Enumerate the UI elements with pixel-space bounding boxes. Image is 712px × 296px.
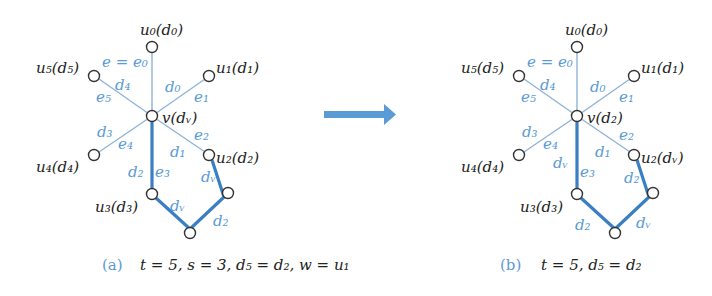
- node-u4: [514, 150, 525, 161]
- color-label-d0: d₀: [590, 78, 606, 96]
- node-u5: [514, 71, 525, 82]
- color-label-d1: d₁: [595, 143, 611, 161]
- path-label-u3-bottom: d₂: [575, 216, 591, 234]
- label-u0: u₀(d₀): [140, 21, 183, 39]
- label-u3: u₃(d₃): [520, 198, 563, 216]
- node-u1: [204, 71, 215, 82]
- edge-label-e0: e = e₀: [527, 53, 573, 71]
- path-label-u3-bottom: dᵥ: [170, 197, 185, 215]
- label-u3: u₃(d₃): [95, 198, 138, 216]
- panel-a: u₀(d₀) u₁(d₁) u₅(d₅) v(dᵥ) u₄(d₄) u₂(d₂)…: [36, 21, 350, 274]
- caption-tag-b: (b): [500, 256, 521, 274]
- transition-arrow: [324, 104, 396, 125]
- edge-label-e4: e₄: [118, 135, 133, 153]
- color-label-d1: d₁: [170, 143, 186, 161]
- caption-a: t = 5, s = 3, d₅ = d₂, w = u₁: [140, 256, 350, 274]
- node-path-right: [648, 188, 659, 199]
- color-label-d4: d₄: [115, 76, 131, 94]
- node-path-right: [223, 188, 234, 199]
- edge-label-e4: e₄: [543, 135, 558, 153]
- label-u4: u₄(d₄): [461, 158, 504, 176]
- node-u0: [147, 42, 158, 53]
- label-u5: u₅(d₅): [461, 59, 504, 77]
- path-label-right-bottom: dᵥ: [636, 214, 651, 232]
- node-u3: [572, 189, 583, 200]
- edge-label-e3: e₃: [155, 163, 170, 181]
- edge-label-e2: e₂: [619, 126, 634, 144]
- path-label-u2-right: d₂: [624, 169, 640, 187]
- color-label-d3: d₃: [97, 123, 113, 141]
- color-label-d4: d₄: [540, 76, 556, 94]
- panel-b: u₀(d₀) u₁(d₁) u₅(d₅) v(d₂) u₄(d₄) u₂(dᵥ)…: [461, 21, 684, 274]
- label-u1: u₁(d₁): [216, 59, 259, 77]
- caption-b: t = 5, d₅ = d₂: [541, 256, 642, 274]
- color-label-d3: d₃: [522, 123, 538, 141]
- node-v: [147, 111, 158, 122]
- node-u1: [629, 71, 640, 82]
- edge-label-e5: e₅: [96, 88, 111, 106]
- edge-label-e3: e₃: [580, 163, 595, 181]
- edge-label-e0: e = e₀: [102, 53, 148, 71]
- node-u2: [204, 150, 215, 161]
- label-u5: u₅(d₅): [36, 59, 79, 77]
- node-v: [572, 111, 583, 122]
- path-label-u2-right: dᵥ: [201, 168, 216, 186]
- color-label-e3: d₂: [128, 163, 144, 181]
- edge-label-e2: e₂: [194, 126, 209, 144]
- node-u0: [572, 42, 583, 53]
- label-u1: u₁(d₁): [641, 59, 684, 77]
- caption-tag-a: (a): [102, 256, 123, 274]
- color-label-d0: d₀: [165, 78, 181, 96]
- node-path-bottom: [610, 228, 621, 239]
- label-u4: u₄(d₄): [36, 158, 79, 176]
- label-u2: u₂(d₂): [216, 149, 259, 167]
- edge-label-e1: e₁: [619, 88, 634, 106]
- figure-canvas: u₀(d₀) u₁(d₁) u₅(d₅) v(dᵥ) u₄(d₄) u₂(d₂)…: [0, 0, 712, 296]
- label-u2: u₂(dᵥ): [641, 149, 684, 167]
- label-v: v(dᵥ): [162, 109, 198, 127]
- node-u2: [629, 150, 640, 161]
- node-u5: [89, 71, 100, 82]
- path-label-right-bottom: d₂: [213, 212, 229, 230]
- node-u3: [147, 189, 158, 200]
- node-u4: [89, 150, 100, 161]
- label-v: v(d₂): [587, 109, 623, 127]
- edge-label-e5: e₅: [521, 88, 536, 106]
- color-label-e3: dᵥ: [553, 154, 568, 172]
- label-u0: u₀(d₀): [565, 21, 608, 39]
- node-path-bottom: [185, 228, 196, 239]
- edge-label-e1: e₁: [194, 88, 209, 106]
